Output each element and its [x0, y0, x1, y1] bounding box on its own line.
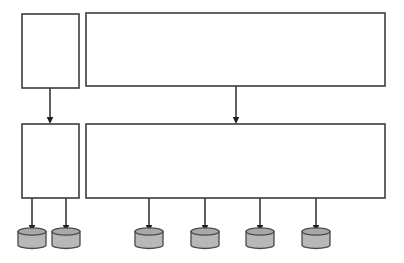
top-right-box[interactable]: [86, 13, 385, 86]
arrow-top-left-to-middle-left: [47, 88, 54, 124]
node-layer: [22, 13, 385, 198]
middle-left-box[interactable]: [22, 124, 79, 198]
diagram-canvas: [0, 0, 404, 263]
top-right-box-rect[interactable]: [86, 13, 385, 86]
top-left-box-rect[interactable]: [22, 14, 79, 88]
arrow-top-right-to-middle-right: [233, 86, 240, 124]
database-cylinder-1-top-ellipse-icon[interactable]: [18, 228, 46, 235]
arrow-middle-right-to-cylinder-5: [257, 198, 264, 232]
database-cylinder-2[interactable]: [52, 228, 80, 249]
arrow-top-right-to-middle-right-arrowhead-icon: [233, 117, 240, 124]
middle-right-box[interactable]: [86, 124, 385, 198]
database-cylinder-5-top-ellipse-icon[interactable]: [246, 228, 274, 235]
database-cylinder-1[interactable]: [18, 228, 46, 249]
database-cylinder-2-top-ellipse-icon[interactable]: [52, 228, 80, 235]
database-cylinder-4[interactable]: [191, 228, 219, 249]
datastore-layer: [18, 228, 330, 249]
middle-left-box-rect[interactable]: [22, 124, 79, 198]
top-left-box[interactable]: [22, 14, 79, 88]
arrow-middle-left-to-cylinder-2: [63, 198, 70, 232]
arrow-top-left-to-middle-left-arrowhead-icon: [47, 117, 54, 124]
arrow-middle-right-to-cylinder-6: [313, 198, 320, 232]
diagram-svg: [0, 0, 404, 263]
database-cylinder-3[interactable]: [135, 228, 163, 249]
database-cylinder-6-top-ellipse-icon[interactable]: [302, 228, 330, 235]
arrow-middle-left-to-cylinder-1: [29, 198, 36, 232]
middle-right-box-rect[interactable]: [86, 124, 385, 198]
database-cylinder-4-top-ellipse-icon[interactable]: [191, 228, 219, 235]
arrow-middle-right-to-cylinder-3: [146, 198, 153, 232]
arrow-middle-right-to-cylinder-4: [202, 198, 209, 232]
database-cylinder-6[interactable]: [302, 228, 330, 249]
database-cylinder-5[interactable]: [246, 228, 274, 249]
database-cylinder-3-top-ellipse-icon[interactable]: [135, 228, 163, 235]
